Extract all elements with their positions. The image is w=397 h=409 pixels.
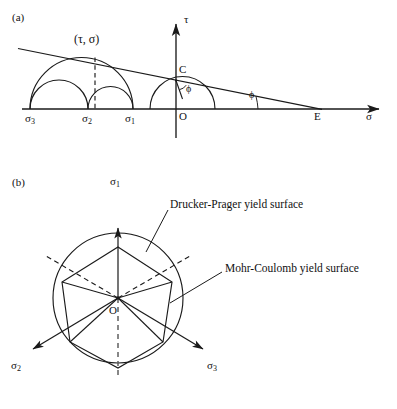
mohr-circle-sigma3-sigma2 [30,80,88,109]
figure-root: (a) (τ, σ) C O E τ σ ϕ ϕ σ3 σ2 σ1 (b) σ1… [0,0,397,409]
mohr-coulomb-leader-line [170,272,222,303]
panel-a-group [18,24,379,138]
sigma1-axis-label-b: σ1 [110,176,120,189]
panel-b-tag: (b) [12,177,25,188]
point-o-label: O [179,111,187,122]
sigma3-sub-a: 3 [31,117,35,126]
point-C-marker [175,80,177,82]
sigma2-axis-b [33,298,118,349]
sigma3-sub-b: 3 [213,364,217,373]
hexagon-spoke-ne [118,282,172,298]
radius-spur-at-C [176,81,183,100]
drucker-prager-annotation: Drucker-Prager yield surface [170,199,303,211]
sigma-axis-label: σ [366,111,372,122]
sigma1-tick-label-a: σ1 [125,113,135,126]
sigma2-sub-a: 2 [88,117,92,126]
sigma2-axis-label-b: σ2 [11,360,21,373]
sigma3-tick-label-a: σ3 [25,113,35,126]
sigma3-axis-b [118,298,203,349]
phi-angle-label-at-c: ϕ [186,84,191,94]
tau-axis-label: τ [184,14,188,25]
panel-a-tag: (a) [12,12,24,23]
sigma1-sub-b: 1 [116,180,120,189]
point-c-label: C [179,64,186,75]
hexagon-spoke-nw [62,282,118,298]
origin-label-b: O [109,305,117,316]
sigma2-tick-label-a: σ2 [82,113,92,126]
origin-dot-b [116,296,120,300]
phi-angle-arc-at-E [256,96,258,109]
panel-b-group [33,210,222,378]
tangent-point-coordinate-label: (τ, σ) [74,33,99,45]
sigma1-sub-a: 1 [131,117,135,126]
sigma3-axis-label-b: σ3 [207,360,217,373]
mohr-coulomb-annotation: Mohr-Coulomb yield surface [225,263,359,275]
phi-angle-label-at-e: ϕ [249,90,254,100]
point-e-label: E [314,111,321,122]
sigma2-sub-b: 2 [17,364,21,373]
failure-envelope-line [18,49,322,110]
hexagon-spoke-se [118,298,163,342]
